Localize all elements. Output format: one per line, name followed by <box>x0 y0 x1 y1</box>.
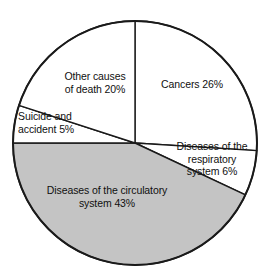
pie-slice-group <box>13 21 257 265</box>
pie-chart-figure: Cancers 26% Other causes of death 20% Su… <box>0 0 269 280</box>
pie-chart-canvas <box>0 0 269 280</box>
pie-slice-cancers <box>135 21 257 151</box>
